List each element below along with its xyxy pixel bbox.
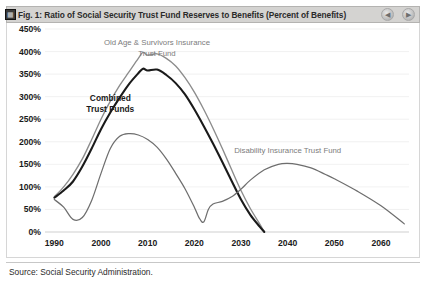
figure-badge-icon[interactable]: ▦ [5,9,16,20]
x-axis-tick-label: 2010 [138,238,157,248]
series-line [54,134,404,224]
series-annotation-label: Trust Fund [138,49,175,58]
series-line [54,52,264,232]
previous-figure-icon[interactable]: ◀ [381,8,394,21]
chevron-left-icon: ◀ [385,11,390,18]
source-text: Source: Social Security Administration. [6,267,420,277]
y-axis-tick-label: 300% [19,92,41,102]
x-axis-tick-label: 2060 [371,238,390,248]
page-title: Fig. 1: Ratio of Social Security Trust F… [7,10,346,20]
y-axis-tick-label: 0% [29,227,42,237]
series-annotation-label: Old Age & Survivors Insurance [104,38,210,47]
figure-source-footer: Source: Social Security Administration. [6,262,420,277]
line-chart: 0%50%100%150%200%250%300%350%400%450%199… [7,23,419,256]
figure-viewer: Fig. 1: Ratio of Social Security Trust F… [0,0,426,287]
y-axis-tick-label: 100% [19,182,41,192]
chart-container: 0%50%100%150%200%250%300%350%400%450%199… [6,23,420,258]
x-axis-tick-label: 2020 [185,238,204,248]
x-axis-tick-label: 2050 [325,238,344,248]
x-axis-tick-label: 2040 [278,238,297,248]
y-axis-tick-label: 350% [19,69,41,79]
x-axis-tick-label: 2000 [91,238,110,248]
series-annotation-label: Combined [90,93,131,103]
y-axis-tick-label: 400% [19,47,41,57]
series-annotation-label: Trust Funds [86,104,134,114]
y-axis-tick-label: 450% [19,24,41,34]
y-axis-tick-label: 50% [24,204,42,214]
grid-glyph-icon: ▦ [7,11,14,18]
y-axis-tick-label: 250% [19,114,41,124]
series-annotation-label: Disability Insurance Trust Fund [234,146,341,155]
chevron-right-icon: ▶ [406,11,411,18]
y-axis-tick-label: 200% [19,137,41,147]
titlebar-nav-controls: ◀ ▶ [381,8,415,21]
y-axis-tick-label: 150% [19,159,41,169]
x-axis-tick-label: 1990 [45,238,64,248]
figure-titlebar: Fig. 1: Ratio of Social Security Trust F… [6,6,420,23]
x-axis-tick-label: 2030 [231,238,250,248]
next-figure-icon[interactable]: ▶ [402,8,415,21]
